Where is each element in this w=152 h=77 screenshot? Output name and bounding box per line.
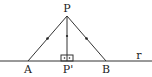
tick-mark-PA: [46, 37, 49, 40]
label-r: r: [136, 49, 142, 62]
geometry-diagram: P A P' B r: [0, 0, 152, 77]
tick-mark-PP-prime: [66, 35, 68, 37]
label-P-prime: P': [63, 63, 73, 76]
label-B: B: [102, 63, 110, 76]
label-A: A: [23, 63, 33, 76]
tick-mark-PB: [85, 37, 88, 40]
label-P: P: [63, 2, 71, 15]
